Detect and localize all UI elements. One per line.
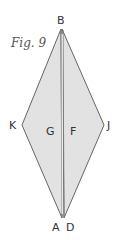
vertex-label-b: B xyxy=(57,15,65,26)
vertex-label-k: K xyxy=(9,120,16,131)
figure-caption: Fig. 9 xyxy=(11,37,46,49)
diagram-canvas: Fig. 9 B K J G F A D xyxy=(0,0,122,242)
crease-gap xyxy=(62,34,63,214)
region-label-f: F xyxy=(70,126,76,137)
vertex-label-a: A xyxy=(52,222,60,233)
region-g-shape xyxy=(22,29,62,218)
vertex-label-j: J xyxy=(107,120,110,131)
vertex-label-d: D xyxy=(66,222,74,233)
region-label-g: G xyxy=(46,126,55,137)
region-f-shape xyxy=(62,29,104,218)
